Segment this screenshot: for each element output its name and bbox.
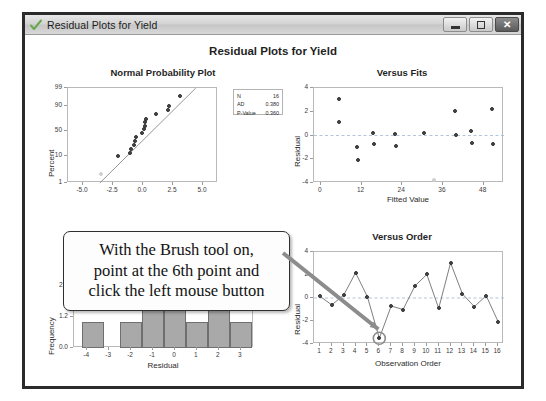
screenshot-root: Residual Plots for Yield ✕ Residual Plot… [0, 0, 546, 401]
minimize-button[interactable] [443, 17, 467, 32]
annotation-arrow [25, 35, 521, 386]
maximize-button[interactable] [469, 17, 493, 32]
figure-canvas: Residual Plots for Yield Normal Probabil… [25, 35, 521, 386]
maximize-icon [477, 21, 485, 29]
minimize-icon [451, 26, 460, 29]
close-icon: ✕ [503, 20, 511, 30]
close-button[interactable]: ✕ [495, 17, 519, 32]
window-titlebar[interactable]: Residual Plots for Yield ✕ [25, 15, 521, 35]
window-controls: ✕ [443, 17, 519, 32]
check-icon [29, 18, 43, 32]
figure-window: Residual Plots for Yield ✕ Residual Plot… [22, 12, 524, 389]
arrow-shaft [283, 253, 378, 329]
window-title: Residual Plots for Yield [47, 19, 157, 31]
